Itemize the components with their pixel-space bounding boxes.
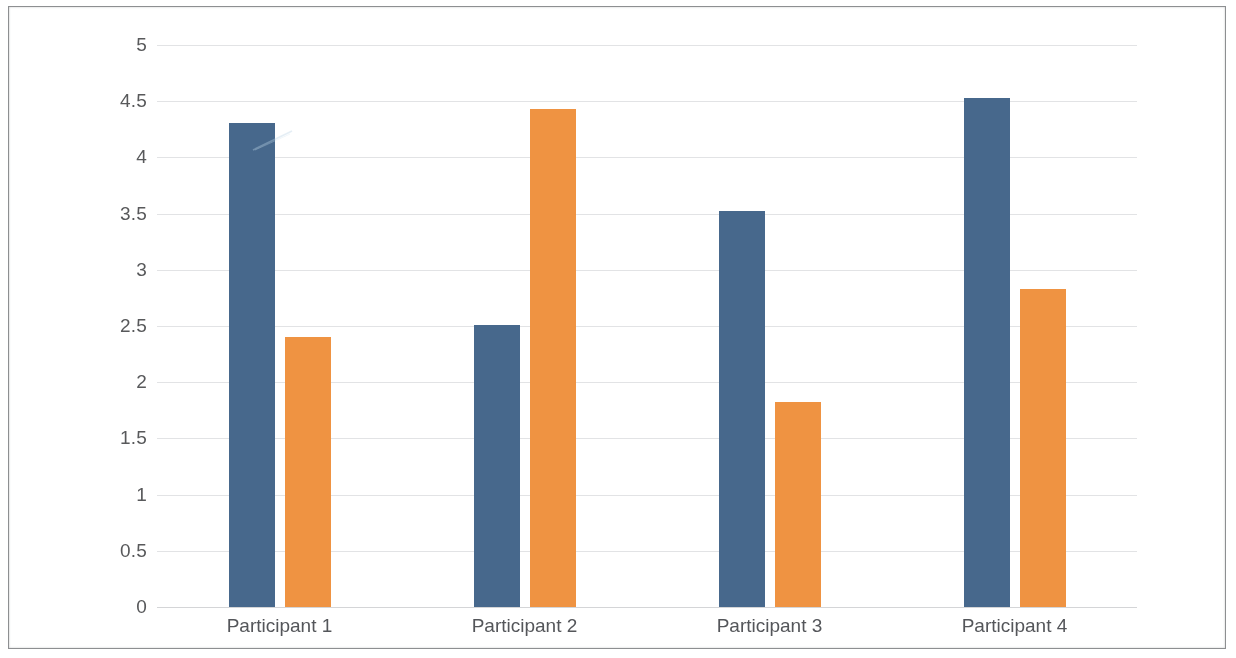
bar[interactable] (775, 402, 821, 607)
y-axis-tick-label: 0 (136, 596, 147, 618)
bar[interactable] (474, 325, 520, 607)
y-axis-tick-label: 2.5 (120, 315, 147, 337)
y-axis-tick-label: 0.5 (120, 540, 147, 562)
x-axis-tick-label: Participant 1 (227, 615, 333, 637)
plot-area (157, 45, 1137, 607)
bar-chart-figure: 54.543.532.521.510.50 Participant 1Parti… (0, 0, 1236, 658)
bar[interactable] (530, 109, 576, 607)
bar[interactable] (1020, 289, 1066, 607)
bar-group (964, 45, 1066, 607)
y-axis-tick-label: 3.5 (120, 203, 147, 225)
chart-border-frame: 54.543.532.521.510.50 Participant 1Parti… (8, 6, 1226, 649)
bar[interactable] (229, 123, 275, 607)
y-axis-tick-label: 2 (136, 371, 147, 393)
gridline (157, 607, 1137, 608)
y-axis-tick-label: 4 (136, 146, 147, 168)
bar[interactable] (964, 98, 1010, 607)
bar[interactable] (719, 211, 765, 607)
bars-layer (157, 45, 1137, 607)
x-axis: Participant 1Participant 2Participant 3P… (157, 615, 1137, 655)
y-axis-tick-label: 1 (136, 484, 147, 506)
y-axis-tick-label: 4.5 (120, 90, 147, 112)
y-axis-tick-label: 5 (136, 34, 147, 56)
x-axis-tick-label: Participant 2 (472, 615, 578, 637)
y-axis-tick-label: 3 (136, 259, 147, 281)
bar-group (474, 45, 576, 607)
x-axis-tick-label: Participant 4 (962, 615, 1068, 637)
bar-group (719, 45, 821, 607)
y-axis: 54.543.532.521.510.50 (69, 45, 147, 607)
y-axis-tick-label: 1.5 (120, 427, 147, 449)
bar-group (229, 45, 331, 607)
x-axis-tick-label: Participant 3 (717, 615, 823, 637)
bar[interactable] (285, 337, 331, 607)
